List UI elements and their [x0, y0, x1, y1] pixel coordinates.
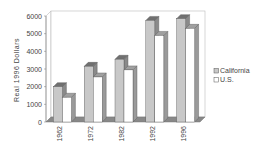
legend-label: U.S.: [220, 76, 234, 83]
x-tick-label: 1996: [180, 126, 187, 142]
bar-us-1996: [186, 24, 199, 122]
y-tick-label: 0: [38, 119, 42, 126]
x-tick-label: 1962: [56, 126, 63, 142]
x-tick-label: 1982: [118, 126, 125, 142]
x-axis-ticks: 19621972198219921996: [56, 126, 186, 142]
y-axis-ticks: 0100020003000400050006000: [26, 13, 46, 126]
y-tick-label: 4000: [26, 48, 42, 55]
y-tick-label: 6000: [26, 13, 42, 20]
y-tick-label: 2000: [26, 83, 42, 90]
legend-swatch: [214, 69, 219, 74]
y-axis-label: Real 1996 Dollars: [13, 38, 20, 102]
bar-us-1962: [62, 93, 75, 122]
bar-us-1972: [93, 73, 106, 122]
legend: CaliforniaU.S.: [214, 67, 250, 83]
bar-chart: 0100020003000400050006000 19621972198219…: [0, 0, 267, 155]
x-tick-label: 1992: [149, 126, 156, 142]
y-tick-label: 3000: [26, 66, 42, 73]
y-tick-label: 1000: [26, 101, 42, 108]
bar-us-1982: [124, 66, 137, 122]
y-tick-label: 5000: [26, 30, 42, 37]
legend-swatch: [214, 78, 219, 83]
bar-us-1992: [155, 31, 168, 122]
x-tick-label: 1972: [87, 126, 94, 142]
legend-label: California: [220, 67, 250, 74]
